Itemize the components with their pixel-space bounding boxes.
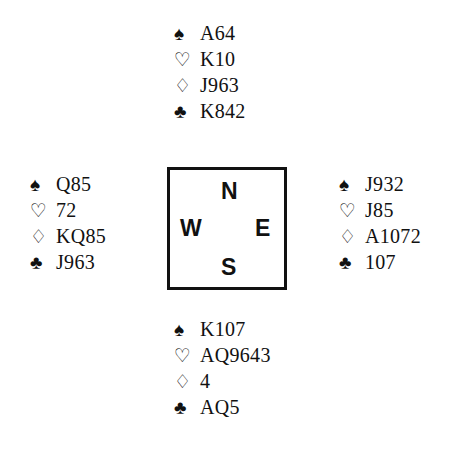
west-clubs-row: ♣J963	[30, 249, 106, 275]
east-spades-row: ♠J932	[339, 171, 421, 197]
west-diamonds: KQ85	[56, 225, 106, 248]
south-clubs: AQ5	[200, 396, 240, 419]
club-icon: ♣	[174, 102, 200, 121]
north-hand: ♠A64 ♡K10 ♢J963 ♣K842	[174, 20, 246, 124]
diamond-icon: ♢	[339, 227, 365, 246]
heart-icon: ♡	[174, 346, 200, 365]
east-clubs-row: ♣107	[339, 249, 421, 275]
west-hearts: 72	[56, 199, 77, 222]
heart-icon: ♡	[339, 201, 365, 220]
north-hearts: K10	[200, 48, 235, 71]
south-hearts: AQ9643	[200, 344, 271, 367]
spade-icon: ♠	[30, 175, 56, 194]
west-spades: Q85	[56, 173, 91, 196]
north-label: N	[221, 178, 238, 205]
club-icon: ♣	[174, 398, 200, 417]
east-hearts: J85	[365, 199, 394, 222]
diamond-icon: ♢	[174, 372, 200, 391]
east-spades: J932	[365, 173, 404, 196]
south-diamonds-row: ♢4	[174, 368, 271, 394]
south-hand: ♠K107 ♡AQ9643 ♢4 ♣AQ5	[174, 316, 271, 420]
diamond-icon: ♢	[30, 227, 56, 246]
spade-icon: ♠	[174, 320, 200, 339]
south-clubs-row: ♣AQ5	[174, 394, 271, 420]
east-label: E	[255, 215, 270, 242]
north-spades: A64	[200, 22, 235, 45]
east-hand: ♠J932 ♡J85 ♢A1072 ♣107	[339, 171, 421, 275]
south-hearts-row: ♡AQ9643	[174, 342, 271, 368]
west-hand: ♠Q85 ♡72 ♢KQ85 ♣J963	[30, 171, 106, 275]
spade-icon: ♠	[339, 175, 365, 194]
south-diamonds: 4	[200, 370, 210, 393]
east-diamonds: A1072	[365, 225, 421, 248]
compass-box: N W E S	[167, 167, 287, 290]
north-hearts-row: ♡K10	[174, 46, 246, 72]
south-label: S	[221, 254, 236, 281]
spade-icon: ♠	[174, 24, 200, 43]
heart-icon: ♡	[30, 201, 56, 220]
club-icon: ♣	[30, 253, 56, 272]
west-diamonds-row: ♢KQ85	[30, 223, 106, 249]
north-spades-row: ♠A64	[174, 20, 246, 46]
west-hearts-row: ♡72	[30, 197, 106, 223]
east-hearts-row: ♡J85	[339, 197, 421, 223]
north-clubs: K842	[200, 100, 246, 123]
east-clubs: 107	[365, 251, 396, 274]
heart-icon: ♡	[174, 50, 200, 69]
west-clubs: J963	[56, 251, 95, 274]
diamond-icon: ♢	[174, 76, 200, 95]
west-label: W	[180, 215, 202, 242]
north-diamonds-row: ♢J963	[174, 72, 246, 98]
south-spades-row: ♠K107	[174, 316, 271, 342]
west-spades-row: ♠Q85	[30, 171, 106, 197]
east-diamonds-row: ♢A1072	[339, 223, 421, 249]
north-clubs-row: ♣K842	[174, 98, 246, 124]
south-spades: K107	[200, 318, 246, 341]
north-diamonds: J963	[200, 74, 239, 97]
club-icon: ♣	[339, 253, 365, 272]
